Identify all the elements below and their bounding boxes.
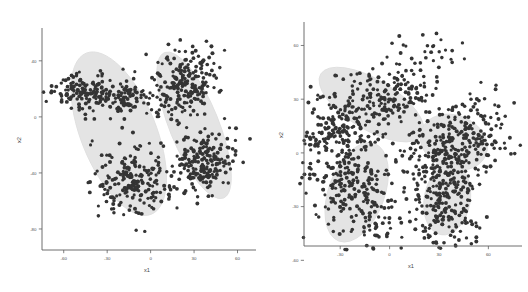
data-point: [196, 195, 199, 198]
data-point: [435, 184, 438, 187]
data-point: [234, 153, 238, 157]
data-point: [352, 105, 355, 108]
data-point: [421, 224, 425, 228]
data-point: [351, 171, 355, 175]
data-point: [168, 185, 172, 189]
data-point: [421, 133, 425, 137]
data-point: [331, 129, 335, 133]
data-point: [189, 99, 193, 103]
y-tick-label: -30: [292, 204, 299, 209]
data-point: [429, 204, 433, 208]
data-point: [339, 182, 343, 186]
data-point: [104, 164, 107, 167]
data-point: [219, 143, 223, 147]
data-point: [434, 87, 437, 90]
data-point: [179, 171, 183, 175]
data-point: [144, 95, 148, 99]
data-point: [475, 158, 479, 162]
data-point: [461, 175, 465, 179]
data-point: [115, 194, 118, 197]
data-point: [184, 135, 188, 139]
data-point: [429, 50, 433, 54]
data-point: [435, 164, 439, 168]
data-point: [439, 123, 443, 127]
data-point: [482, 148, 485, 151]
data-point: [119, 82, 122, 85]
data-point: [381, 96, 385, 100]
data-point: [453, 148, 456, 151]
data-point: [132, 179, 136, 183]
data-point: [351, 111, 354, 114]
data-point: [400, 236, 403, 239]
data-point: [489, 127, 493, 131]
data-point: [142, 101, 145, 104]
data-point: [475, 224, 479, 228]
data-point: [201, 146, 204, 149]
data-point: [408, 96, 412, 100]
data-point: [377, 93, 380, 96]
data-point: [419, 61, 423, 65]
data-point: [334, 126, 338, 130]
data-point: [368, 83, 372, 87]
data-point: [377, 122, 381, 126]
data-point: [338, 161, 341, 164]
data-point: [327, 207, 331, 211]
data-point: [364, 123, 367, 126]
data-point: [186, 94, 189, 97]
data-point: [193, 97, 197, 101]
data-point: [353, 163, 357, 167]
y-tick-label: 0: [34, 115, 37, 120]
data-point: [346, 99, 350, 103]
data-point: [168, 86, 172, 90]
data-point: [215, 162, 218, 165]
data-point: [382, 191, 386, 195]
data-point: [108, 153, 112, 157]
data-point: [393, 98, 397, 102]
data-point: [363, 233, 366, 236]
data-point: [503, 146, 507, 150]
data-point: [467, 115, 471, 119]
x-tick-label: 30: [437, 252, 442, 257]
data-point: [435, 32, 439, 36]
data-point: [161, 62, 164, 65]
data-point: [439, 183, 442, 186]
data-point: [124, 95, 127, 98]
data-point: [381, 221, 385, 225]
data-point: [345, 132, 349, 136]
data-point: [324, 148, 328, 152]
data-point: [460, 170, 463, 173]
panel-left-canvas: -60-3003060400-40-80x1x2: [0, 0, 264, 292]
panel-right-canvas: -300306060300-30-60x1x2: [264, 0, 528, 292]
data-point: [447, 128, 450, 131]
data-point: [118, 107, 122, 111]
data-point: [361, 98, 365, 102]
data-point: [228, 126, 231, 129]
data-point: [194, 74, 198, 78]
data-point: [374, 182, 378, 186]
data-point: [332, 104, 336, 108]
data-point: [194, 65, 198, 69]
data-point: [210, 159, 214, 163]
data-point: [434, 202, 438, 206]
data-point: [399, 87, 403, 91]
data-point: [371, 67, 375, 71]
data-point: [96, 169, 99, 172]
data-point: [393, 200, 397, 204]
data-point: [212, 86, 215, 89]
data-point: [373, 188, 376, 191]
data-point: [461, 41, 464, 44]
data-point: [336, 130, 340, 134]
data-point: [75, 97, 79, 101]
data-point: [375, 178, 378, 181]
data-point: [312, 107, 316, 111]
data-point: [356, 156, 360, 160]
data-point: [346, 138, 349, 141]
data-point: [343, 171, 347, 175]
data-point: [425, 195, 429, 199]
data-point: [459, 188, 463, 192]
data-point: [399, 246, 403, 250]
data-point: [122, 213, 125, 216]
data-point: [503, 115, 507, 119]
data-point: [211, 163, 214, 166]
data-point: [460, 165, 464, 169]
